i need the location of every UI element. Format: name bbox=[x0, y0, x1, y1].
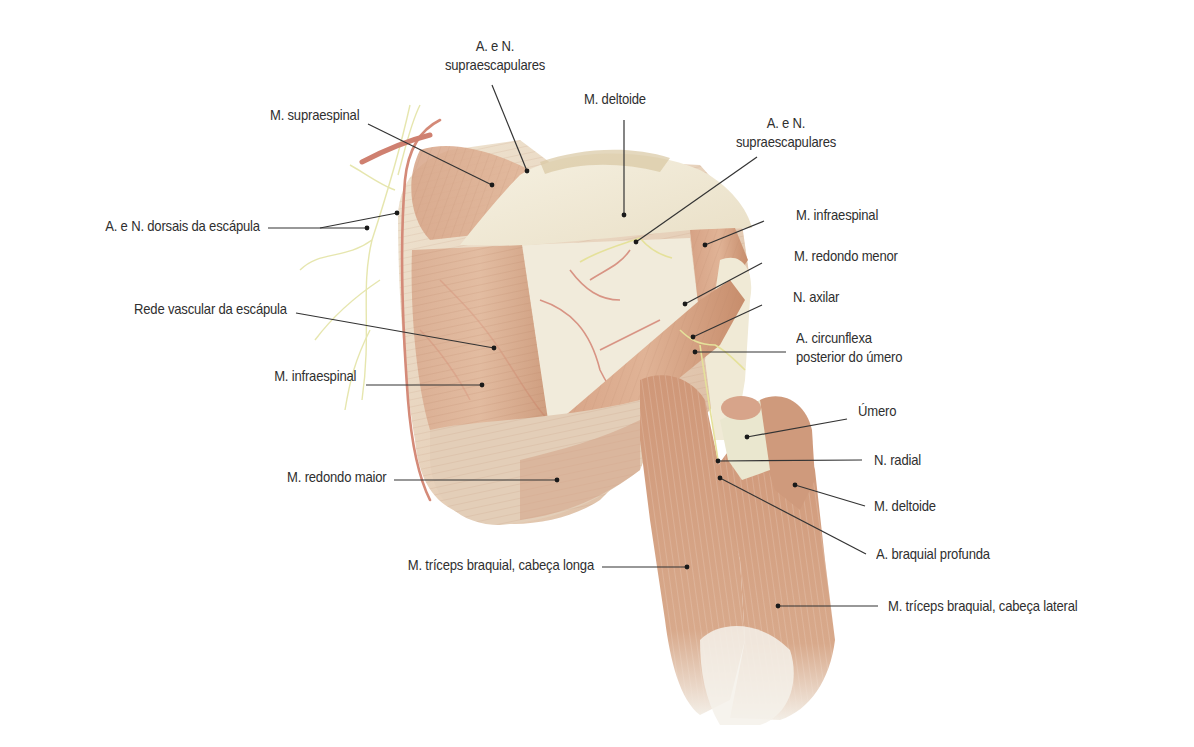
label-axilar: N. axilar bbox=[793, 288, 839, 307]
label-dorsais-escapula: A. e N. dorsais da escápula bbox=[105, 217, 260, 236]
label-radial: N. radial bbox=[874, 451, 921, 470]
label-line: A. circunflexa bbox=[796, 329, 902, 348]
label-circunflexa: A. circunflexa posterior do úmero bbox=[796, 329, 902, 367]
label-supraescapulares-right: A. e N. supraescapulares bbox=[723, 114, 849, 152]
label-triceps-lateral: M. tríceps braquial, cabeça lateral bbox=[888, 597, 1078, 616]
label-redondo-maior: M. redondo maior bbox=[287, 468, 386, 487]
label-deltoide-right: M. deltoide bbox=[874, 497, 936, 516]
label-line: supraescapulares bbox=[432, 56, 558, 75]
label-infraespinal-left: M. infraespinal bbox=[274, 367, 356, 386]
label-triceps-longa: M. tríceps braquial, cabeça longa bbox=[408, 556, 594, 575]
label-deltoide-top: M. deltoide bbox=[584, 90, 646, 109]
shoulder-illustration bbox=[0, 0, 1194, 747]
label-redondo-menor: M. redondo menor bbox=[794, 247, 898, 266]
label-rede-vascular: Rede vascular da escápula bbox=[134, 300, 287, 319]
anatomy-figure: A. e N. supraescapulares M. deltoide A. … bbox=[0, 0, 1194, 747]
label-braquial-profunda: A. braquial profunda bbox=[876, 545, 990, 564]
label-line: supraescapulares bbox=[723, 133, 849, 152]
label-line: A. e N. bbox=[723, 114, 849, 133]
label-supraespinal: M. supraespinal bbox=[270, 106, 359, 125]
label-line: A. e N. bbox=[432, 37, 558, 56]
label-supraescapulares-top: A. e N. supraescapulares bbox=[432, 37, 558, 75]
label-line: posterior do úmero bbox=[796, 348, 902, 367]
label-umero: Úmero bbox=[858, 402, 896, 421]
label-infraespinal-right: M. infraespinal bbox=[796, 206, 878, 225]
